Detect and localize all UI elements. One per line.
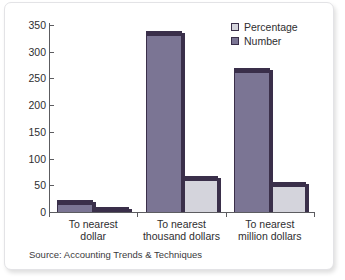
category-label-line: To nearest <box>226 218 314 230</box>
bar-face <box>57 204 93 212</box>
bar-top-face <box>146 31 182 36</box>
bar-face <box>146 35 182 212</box>
y-tick-label: 150 <box>6 127 46 138</box>
y-tick-label: 250 <box>6 73 46 84</box>
bar-side-face <box>182 33 185 212</box>
y-tick <box>49 159 54 160</box>
category-label-1: To nearestthousand dollars <box>137 218 225 242</box>
category-label-2: To nearestmillion dollars <box>226 218 314 242</box>
legend-swatch-percentage-icon <box>231 23 239 31</box>
bar-top-face <box>93 207 129 212</box>
bar-percentage-1 <box>182 180 218 212</box>
legend-item-percentage: Percentage <box>231 22 298 33</box>
bar-top-face <box>234 68 270 73</box>
y-tick <box>49 52 54 53</box>
y-tick-label: 50 <box>6 180 46 191</box>
x-axis-line <box>49 212 314 213</box>
y-tick <box>49 185 54 186</box>
category-label-line: To nearest <box>49 218 137 230</box>
y-tick <box>49 25 54 26</box>
source-note: Source: Accounting Trends & Techniques <box>29 249 202 260</box>
y-tick-label: 350 <box>6 20 46 31</box>
x-tick <box>314 212 315 217</box>
chart-legend: Percentage Number <box>231 22 298 49</box>
legend-item-number: Number <box>231 36 298 47</box>
y-tick <box>49 105 54 106</box>
bar-number-0 <box>57 204 93 212</box>
legend-swatch-number-icon <box>231 37 239 45</box>
bar-side-face <box>306 184 309 212</box>
category-label-line: thousand dollars <box>137 230 225 242</box>
chart-figure: 050100150200250300350 To nearestdollarTo… <box>4 2 334 270</box>
bar-top-face <box>182 176 218 181</box>
bar-side-face <box>218 178 221 212</box>
chart-plot-area: 050100150200250300350 To nearestdollarTo… <box>5 3 334 270</box>
x-tick <box>137 212 138 217</box>
bar-number-1 <box>146 35 182 212</box>
bar-number-2 <box>234 72 270 212</box>
x-tick <box>49 212 50 217</box>
y-tick-label: 200 <box>6 100 46 111</box>
category-label-line: million dollars <box>226 230 314 242</box>
category-label-line: dollar <box>49 230 137 242</box>
bar-side-face <box>129 209 132 213</box>
y-tick <box>49 132 54 133</box>
y-tick-label: 0 <box>6 207 46 218</box>
bar-percentage-2 <box>270 186 306 212</box>
bar-percentage-0 <box>93 211 129 213</box>
bar-face <box>270 186 306 212</box>
category-label-line: To nearest <box>137 218 225 230</box>
legend-label-number: Number <box>244 36 281 47</box>
category-label-0: To nearestdollar <box>49 218 137 242</box>
bar-top-face <box>270 182 306 187</box>
x-tick <box>226 212 227 217</box>
legend-label-percentage: Percentage <box>244 22 298 33</box>
y-tick-label: 100 <box>6 154 46 165</box>
bar-face <box>234 72 270 212</box>
bar-side-face <box>270 70 273 212</box>
bar-face <box>182 180 218 212</box>
y-tick <box>49 78 54 79</box>
y-tick-label: 300 <box>6 47 46 58</box>
bar-side-face <box>93 202 96 212</box>
bar-top-face <box>57 200 93 205</box>
